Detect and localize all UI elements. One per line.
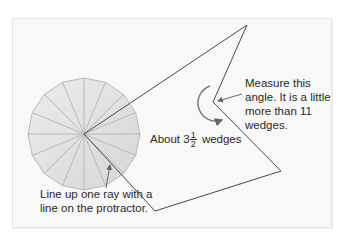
about-suffix: wedges	[202, 133, 242, 145]
angle-arc	[198, 86, 222, 121]
fraction-half: 12	[190, 131, 197, 148]
about-prefix: About 3	[150, 133, 190, 145]
line-up-label: Line up one ray with a line on the protr…	[40, 187, 170, 215]
about-wedges-label: About 312 wedges	[150, 131, 242, 148]
measure-arrow	[218, 94, 242, 101]
measure-angle-label: Measure this angle. It is a little more …	[245, 76, 335, 132]
